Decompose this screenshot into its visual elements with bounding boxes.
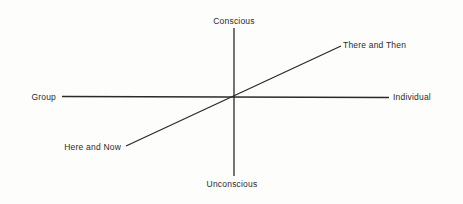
- diagram-canvas: Conscious Unconscious Group Individual T…: [0, 0, 463, 204]
- label-group: Group: [20, 92, 56, 102]
- label-individual: Individual: [393, 92, 431, 102]
- label-there-and-then: There and Then: [343, 40, 406, 50]
- horizontal-axis-line: [62, 97, 389, 98]
- label-unconscious: Unconscious: [200, 179, 264, 189]
- axes-graphic: [0, 0, 463, 204]
- label-conscious: Conscious: [210, 16, 258, 26]
- label-here-and-now: Here and Now: [45, 142, 121, 152]
